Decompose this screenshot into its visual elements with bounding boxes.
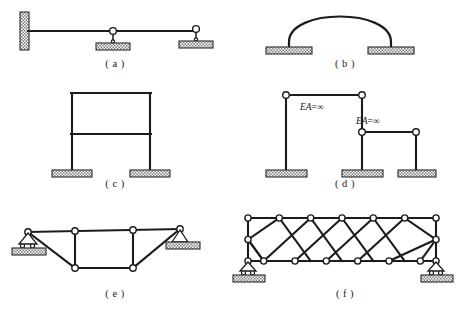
roller-wheel-left-1 [21,244,25,248]
truss-e-node-top-mid-left [72,228,78,234]
truss-f-brace-11 [405,218,436,240]
hinge-node-upper-right [359,92,366,99]
panel-d-drawing: EA=∞ EA=∞ [230,82,460,182]
support-base-right [179,41,213,48]
truss-e-base-right [166,242,200,249]
truss-f-node-mid-right [433,236,439,242]
label-ea-upper: EA=∞ [299,102,324,112]
caption-f: ( f ) [230,288,460,299]
hinge-node-upper-left [283,92,290,99]
truss-e-node-bottom-left [72,265,78,271]
roller-wheel-left-2 [31,244,35,248]
truss-f-node-bottom-7 [417,258,423,264]
panel-e-trapezoidal-truss: ( e ) [0,200,230,315]
frame-base-left [52,170,92,177]
arch-support-left [266,47,312,54]
truss-f-base-left [233,275,265,282]
caption-e: ( e ) [0,288,230,299]
hinge-node-lower-right [413,129,420,136]
truss-f-roller-triangle-right [428,262,444,271]
truss-f-node-mid-left [245,236,251,242]
truss-f-brace-5 [311,218,342,261]
panel-d-rigid-links: EA=∞ EA=∞ ( d ) [230,82,460,200]
caption-b: ( b ) [230,58,460,69]
truss-f-brace-14 [248,240,264,262]
truss-f-node-top-3 [308,215,314,221]
truss-f-brace-6 [295,218,342,261]
truss-f-roller-wheel-right-2 [439,271,443,275]
panel-a-continuous-beam: ( a ) [0,0,230,82]
truss-f-node-top-6 [402,215,408,221]
frame-base-right [130,170,170,177]
caption-a: ( a ) [0,58,230,69]
truss-f-node-bottom-3 [292,258,298,264]
panel-c-drawing [0,82,230,182]
hinge-node-mid [110,28,117,35]
truss-f-node-bottom-4 [323,258,329,264]
truss-f-node-top-2 [276,215,282,221]
panel-e-drawing [0,200,230,292]
panel-b-drawing [230,0,460,62]
truss-f-brace-1 [248,218,279,240]
panel-f-drawing [230,200,460,292]
arch-support-right [368,47,414,54]
truss-f-node-top-4 [339,215,345,221]
truss-f-roller-wheel-right-1 [430,271,434,275]
column-base-right [398,170,436,177]
truss-f-node-bottom-5 [355,258,361,264]
panel-b-arch: ( b ) [230,0,460,82]
panel-f-cross-braced-truss: ( f ) [230,200,460,315]
hinge-node-right [193,26,200,33]
truss-f-node-top-1 [245,215,251,221]
truss-f-node-bottom-6 [386,258,392,264]
truss-f-node-top-5 [370,215,376,221]
truss-f-base-right [421,275,453,282]
roller-triangle-left [19,233,37,244]
support-base-mid [96,43,130,50]
column-base-left [266,170,307,177]
figure-sheet: ( a ) ( b ) ( c ) [0,0,460,315]
truss-f-node-bottom-2 [261,258,267,264]
label-ea-lower: EA=∞ [355,116,380,126]
truss-e-top-chord [28,229,180,232]
truss-f-brace-9 [373,218,404,261]
truss-f-brace-7 [342,218,373,261]
truss-e-base-left [12,248,46,255]
panel-a-drawing [0,0,230,62]
panel-c-rigid-frame: ( c ) [0,82,230,200]
truss-f-roller-wheel-left-1 [242,271,246,275]
truss-f-node-top-7 [433,215,439,221]
caption-c: ( c ) [0,178,230,189]
column-base-middle [342,170,383,177]
truss-e-node-top-mid-right [130,227,136,233]
arch-member [289,17,391,49]
caption-d: ( d ) [230,178,460,189]
pin-triangle-right [172,230,188,242]
hinge-node-lower-left [359,129,366,136]
truss-f-roller-triangle-left [240,262,256,271]
truss-f-roller-wheel-left-2 [251,271,255,275]
truss-e-node-bottom-right [130,265,136,271]
truss-f-brace-3 [279,218,310,261]
